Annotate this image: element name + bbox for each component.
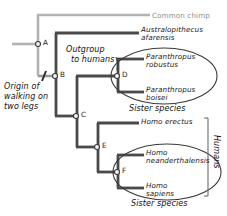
taxon-label-australopithecus-line2: afarensis (141, 34, 175, 42)
taxon-label-common-chimp: Common chimp (152, 12, 210, 20)
node-c-to-e-branch (76, 116, 97, 147)
taxon-label-homo-sapiens-line2: sapiens (146, 190, 174, 198)
node-label-e: E (102, 142, 107, 150)
taxon-label-paranthropus-boisei-line2: boisei (146, 94, 168, 102)
outgroup-to-humans-line1: Outgroup (66, 45, 105, 55)
origin-of-walking-line3: two legs (4, 102, 38, 112)
node-a-to-b-branch (38, 44, 55, 76)
node-d-marker (115, 74, 120, 79)
humans-bracket-label: Humans (212, 135, 220, 169)
taxon-label-homo-erectus: Homo erectus (141, 118, 193, 126)
phylogenetic-tree-diagram: Common chimp Australopithecus afarensis … (0, 0, 227, 216)
node-label-d: D (122, 71, 128, 79)
node-label-f: F (122, 167, 126, 175)
sister-species-label-homo: Sister species (131, 199, 188, 209)
node-c-marker (74, 114, 79, 119)
taxon-label-homo-neanderthalensis-line2: neanderthalensis (146, 157, 210, 165)
origin-of-walking-line1: Origin of (4, 82, 39, 92)
node-label-b: B (60, 71, 65, 79)
node-a-marker (36, 42, 41, 47)
sister-species-label-paranthropus: Sister species (129, 104, 186, 114)
node-b-to-c-branch (55, 76, 76, 116)
node-label-a: A (43, 39, 48, 47)
node-b-marker (53, 74, 58, 79)
taxon-label-paranthropus-robustus-line2: robustus (146, 61, 178, 69)
node-f-marker (115, 170, 120, 175)
node-label-c: C (81, 111, 86, 119)
common-chimp-branch (12, 15, 150, 44)
outgroup-to-humans-line2: to humans (71, 55, 115, 65)
node-e-marker (95, 145, 100, 150)
origin-of-walking-line2: walking on (4, 92, 48, 102)
